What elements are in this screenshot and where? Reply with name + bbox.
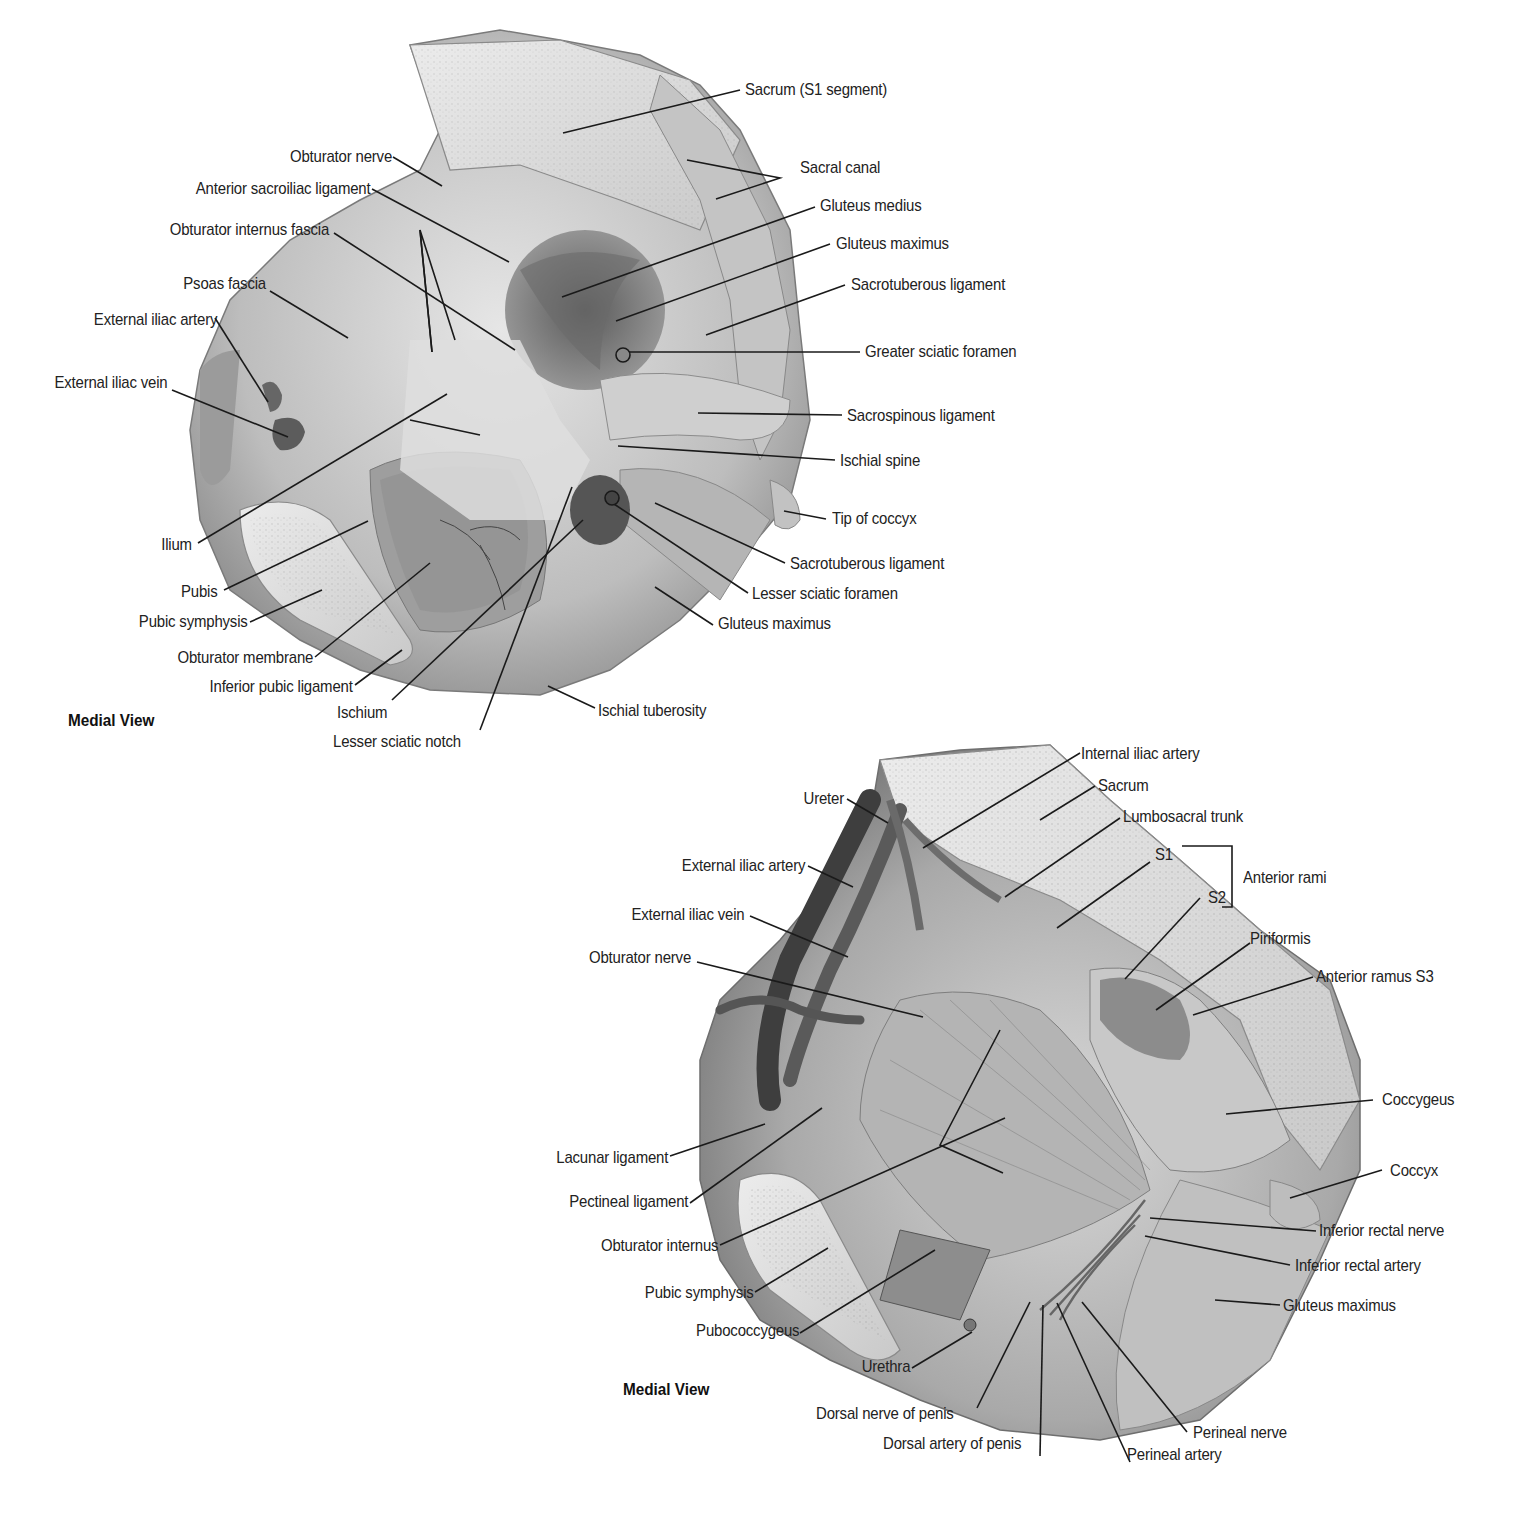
label-piriformis: Piriformis [1250, 929, 1311, 949]
label-obturator-internus: Obturator internus [601, 1236, 718, 1256]
label-sacral-canal: Sacral canal [800, 158, 880, 178]
label-sacrum-s1: Sacrum (S1 segment) [745, 80, 887, 100]
label-gluteus-medius: Gluteus medius [820, 196, 921, 216]
label-pubococcygeus: Pubococcygeus [696, 1321, 799, 1341]
label-obturator-internus-fascia: Obturator internus fascia [170, 220, 329, 240]
label-inferior-rectal-nerve: Inferior rectal nerve [1319, 1221, 1444, 1241]
label-pubis: Pubis [181, 582, 218, 602]
label-external-iliac-vein-b: External iliac vein [631, 905, 744, 925]
label-anterior-ramus-s3: Anterior ramus S3 [1316, 967, 1434, 987]
label-greater-sciatic-foramen: Greater sciatic foramen [865, 342, 1016, 362]
label-urethra: Urethra [861, 1357, 910, 1377]
label-lacunar-ligament: Lacunar ligament [556, 1148, 668, 1168]
figure-a-view-title: Medial View [68, 711, 154, 731]
label-pubic-symphysis-a: Pubic symphysis [139, 612, 248, 632]
label-inferior-rectal-artery: Inferior rectal artery [1295, 1256, 1421, 1276]
label-coccyx: Coccyx [1390, 1161, 1438, 1181]
label-lumbosacral-trunk: Lumbosacral trunk [1123, 807, 1243, 827]
label-ischium: Ischium [337, 703, 387, 723]
label-dorsal-nerve-of-penis: Dorsal nerve of penis [816, 1404, 954, 1424]
label-external-iliac-artery-b: External iliac artery [681, 856, 805, 876]
label-gluteus-maximus-lower: Gluteus maximus [718, 614, 831, 634]
figure-a-drawing [190, 30, 810, 695]
label-inferior-pubic-ligament: Inferior pubic ligament [210, 677, 353, 697]
anatomy-figure: Sacrum (S1 segment) Sacral canal Gluteus… [0, 0, 1517, 1529]
label-ureter: Ureter [803, 789, 844, 809]
label-anterior-sacroiliac-ligament: Anterior sacroiliac ligament [195, 179, 370, 199]
label-tip-of-coccyx: Tip of coccyx [832, 509, 916, 529]
label-pubic-symphysis-b: Pubic symphysis [645, 1283, 754, 1303]
label-sacrum: Sacrum [1098, 776, 1148, 796]
label-dorsal-artery-of-penis: Dorsal artery of penis [883, 1434, 1021, 1454]
label-ilium: Ilium [161, 535, 192, 555]
label-psoas-fascia: Psoas fascia [183, 274, 266, 294]
label-ischial-tuberosity: Ischial tuberosity [598, 701, 706, 721]
label-s1: S1 [1155, 845, 1173, 865]
label-coccygeus: Coccygeus [1382, 1090, 1454, 1110]
figure-b-view-title: Medial View [623, 1380, 709, 1400]
label-sacrotuberous-ligament-lower: Sacrotuberous ligament [790, 554, 944, 574]
label-obturator-nerve: Obturator nerve [290, 147, 392, 167]
label-pectineal-ligament: Pectineal ligament [569, 1192, 688, 1212]
label-external-iliac-artery-a: External iliac artery [93, 310, 217, 330]
label-internal-iliac-artery: Internal iliac artery [1081, 744, 1200, 764]
label-gluteus-maximus-b: Gluteus maximus [1283, 1296, 1396, 1316]
label-lesser-sciatic-notch: Lesser sciatic notch [333, 732, 461, 752]
label-external-iliac-vein-a: External iliac vein [54, 373, 167, 393]
label-obturator-membrane: Obturator membrane [177, 648, 313, 668]
label-perineal-nerve: Perineal nerve [1193, 1423, 1287, 1443]
label-sacrospinous-ligament: Sacrospinous ligament [847, 406, 995, 426]
label-obturator-nerve-b: Obturator nerve [589, 948, 691, 968]
label-sacrotuberous-ligament-upper: Sacrotuberous ligament [851, 275, 1005, 295]
label-lesser-sciatic-foramen: Lesser sciatic foramen [752, 584, 898, 604]
label-anterior-rami: Anterior rami [1243, 868, 1326, 888]
label-perineal-artery: Perineal artery [1127, 1445, 1222, 1465]
label-ischial-spine: Ischial spine [840, 451, 920, 471]
label-s2: S2 [1208, 888, 1226, 908]
label-gluteus-maximus-upper: Gluteus maximus [836, 234, 949, 254]
